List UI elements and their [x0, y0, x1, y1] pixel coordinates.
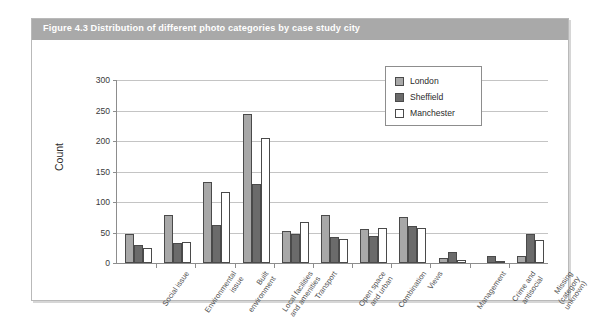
page-root: Figure 4.3 Distribution of different pho…: [0, 0, 598, 319]
bar-sheffield: [252, 184, 261, 263]
bar-london: [517, 256, 526, 263]
y-tick-mark: [113, 111, 117, 112]
x-tick-mark: [195, 263, 196, 268]
bar-sheffield: [173, 243, 182, 263]
bar-sheffield: [134, 245, 143, 263]
bar-manchester: [496, 261, 505, 263]
x-tick-mark: [235, 263, 236, 268]
x-tick-label: Environmental issue: [203, 270, 245, 319]
bar-manchester: [143, 248, 152, 263]
x-tick-label: Views: [426, 270, 445, 291]
bar-manchester: [378, 228, 387, 263]
figure-box: Figure 4.3 Distribution of different pho…: [31, 18, 569, 301]
bar-group: [360, 80, 387, 263]
bar-manchester: [339, 239, 348, 263]
bar-manchester: [261, 138, 270, 263]
x-tick-label: Management: [476, 270, 509, 311]
bar-london: [125, 234, 134, 263]
y-axis-title: Count: [53, 143, 65, 171]
chart-container: Count 050100150200250300 LondonSheffield…: [37, 45, 563, 295]
bar-manchester: [300, 222, 309, 263]
y-tick-mark: [113, 172, 117, 173]
legend-item: Manchester: [395, 105, 481, 121]
x-tick-mark: [470, 263, 471, 268]
bar-manchester: [221, 192, 230, 263]
legend-label: London: [410, 76, 439, 86]
y-tick-label: 100: [96, 197, 110, 207]
plot-area: 050100150200250300: [116, 80, 548, 264]
bar-group: [243, 80, 270, 263]
x-tick-label: Combination: [397, 270, 429, 310]
y-tick-label: 250: [96, 106, 110, 116]
figure-caption: Figure 4.3 Distribution of different pho…: [43, 23, 360, 33]
y-tick-label: 300: [96, 75, 110, 85]
bar-group: [282, 80, 309, 263]
y-tick-mark: [113, 233, 117, 234]
bar-manchester: [457, 260, 466, 263]
x-tick-mark: [509, 263, 510, 268]
bar-london: [243, 114, 252, 263]
y-tick-mark: [113, 141, 117, 142]
bar-london: [321, 215, 330, 263]
y-tick-mark: [113, 202, 117, 203]
legend-swatch-london: [395, 77, 404, 86]
x-tick-mark: [274, 263, 275, 268]
bar-london: [399, 217, 408, 263]
bar-sheffield: [526, 234, 535, 263]
x-tick-mark: [352, 263, 353, 268]
x-tick-mark: [313, 263, 314, 268]
bar-group: [321, 80, 348, 263]
bar-group: [164, 80, 191, 263]
bar-group: [125, 80, 152, 263]
bar-manchester: [535, 240, 544, 263]
x-tick-mark: [430, 263, 431, 268]
y-tick-label: 200: [96, 136, 110, 146]
bar-sheffield: [212, 225, 221, 263]
legend-label: Manchester: [410, 108, 455, 118]
x-tick-mark: [156, 263, 157, 268]
legend-item: Sheffield: [395, 89, 481, 105]
bar-manchester: [417, 228, 426, 263]
bar-manchester: [182, 242, 191, 263]
legend-swatch-sheffield: [395, 93, 404, 102]
y-tick-label: 0: [105, 258, 110, 268]
x-tick-label: Open space and urban: [357, 270, 395, 313]
bar-london: [439, 258, 448, 263]
y-tick-mark: [113, 263, 117, 264]
bar-sheffield: [330, 237, 339, 263]
bar-sheffield: [448, 252, 457, 263]
x-tick-label: Missing (category unknown): [549, 270, 589, 312]
x-tick-label: Built environment: [240, 270, 278, 314]
bar-group: [517, 80, 544, 263]
y-tick-mark: [113, 80, 117, 81]
bar-london: [360, 229, 369, 263]
figure-caption-bar: Figure 4.3 Distribution of different pho…: [32, 19, 568, 40]
y-tick-label: 50: [100, 228, 110, 238]
legend-item: London: [395, 73, 481, 89]
x-tick-label: Social issue: [161, 270, 191, 308]
y-tick-label: 150: [96, 167, 110, 177]
x-tick-mark: [391, 263, 392, 268]
legend-label: Sheffield: [410, 92, 443, 102]
bar-london: [282, 231, 291, 263]
bar-chart: Count 050100150200250300 LondonSheffield…: [37, 45, 563, 295]
legend-swatch-manchester: [395, 109, 404, 118]
bar-sheffield: [408, 226, 417, 263]
chart-legend: LondonSheffieldManchester: [385, 66, 482, 126]
bar-sheffield: [369, 236, 378, 263]
x-tick-label: Crime and antisocial: [511, 270, 545, 309]
bar-london: [203, 182, 212, 263]
bar-group: [203, 80, 230, 263]
bar-sheffield: [291, 234, 300, 263]
bar-sheffield: [487, 256, 496, 263]
bar-london: [164, 215, 173, 263]
